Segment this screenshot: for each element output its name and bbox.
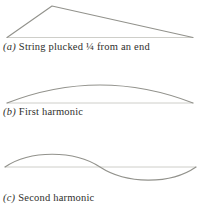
caption-b: (b)First harmonic <box>3 106 83 117</box>
standing-waves-figure: (a)String plucked ¼ from an end (b)First… <box>0 0 201 221</box>
caption-a: (a)String plucked ¼ from an end <box>3 41 150 52</box>
panel-label-a: (a) <box>3 41 16 52</box>
first-harmonic-curve <box>7 85 193 103</box>
plucked-string-panel <box>0 0 201 42</box>
panel-label-b: (b) <box>3 106 16 117</box>
second-harmonic-panel <box>0 146 201 190</box>
caption-text-a: String plucked ¼ from an end <box>19 41 150 52</box>
plucked-string-shape <box>7 6 193 38</box>
panel-label-c: (c) <box>3 192 15 203</box>
caption-text-c: Second harmonic <box>18 192 94 203</box>
caption-c: (c)Second harmonic <box>3 192 94 203</box>
caption-text-b: First harmonic <box>19 106 83 117</box>
first-harmonic-panel <box>0 64 201 108</box>
